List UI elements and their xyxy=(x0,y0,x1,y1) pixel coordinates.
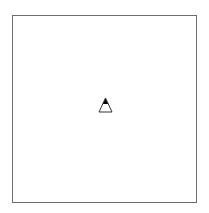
triangle-icon xyxy=(98,97,113,113)
